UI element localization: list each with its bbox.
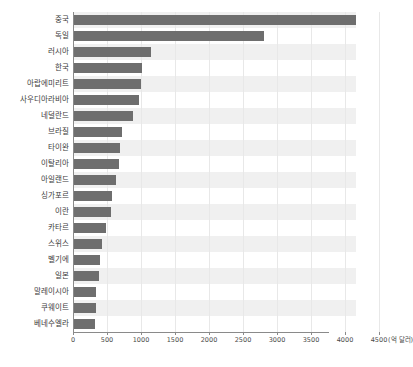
chart-row: 이란 (0, 204, 381, 220)
bar-브라질 (74, 127, 122, 137)
x-tick-mark (107, 332, 108, 335)
axis-unit-label: (억 달러) (388, 337, 413, 344)
bar-rows: 중국독일러시아한국아랍에미리트사우디아라비아네덜란드브라질타이완이탈리아아일랜드… (0, 12, 381, 332)
chart-row: 이탈리아 (0, 156, 381, 172)
x-tick-label: 0 (71, 337, 75, 344)
x-tick-mark (311, 332, 312, 335)
bar-러시아 (74, 47, 151, 57)
category-label: 이탈리아 (0, 156, 69, 172)
category-label: 쿠웨이트 (0, 300, 69, 316)
x-tick-label: 4000 (337, 337, 354, 344)
bar-스위스 (74, 239, 102, 249)
bar-쿠웨이트 (74, 303, 96, 313)
chart-row: 싱가포르 (0, 188, 381, 204)
chart-row: 말레이시아 (0, 284, 381, 300)
x-tick-mark (243, 332, 244, 335)
x-tick-label: 2500 (235, 337, 252, 344)
category-label: 스위스 (0, 236, 69, 252)
chart-row: 아랍에미리트 (0, 76, 381, 92)
category-label: 한국 (0, 60, 69, 76)
category-label: 독일 (0, 28, 69, 44)
category-label: 아일랜드 (0, 172, 69, 188)
x-tick-mark (277, 332, 278, 335)
chart-row: 사우디아라비아 (0, 92, 381, 108)
chart-row: 쿠웨이트 (0, 300, 381, 316)
chart-row: 브라질 (0, 124, 381, 140)
category-label: 네덜란드 (0, 108, 69, 124)
x-axis: 050010001500200025003000350040004500(억 달… (0, 332, 381, 352)
chart-row: 러시아 (0, 44, 381, 60)
bar-독일 (74, 31, 264, 41)
x-tick-label: 1500 (167, 337, 184, 344)
chart-row: 일본 (0, 268, 381, 284)
chart-row: 중국 (0, 12, 381, 28)
bar-벨기에 (74, 255, 100, 265)
bar-타이완 (74, 143, 120, 153)
chart-row: 독일 (0, 28, 381, 44)
bar-네덜란드 (74, 111, 133, 121)
category-label: 싱가포르 (0, 188, 69, 204)
x-tick-label: 500 (101, 337, 113, 344)
bar-베네수엘라 (74, 319, 95, 329)
bar-말레이시아 (74, 287, 96, 297)
chart-row: 벨기에 (0, 252, 381, 268)
category-label: 베네수엘라 (0, 316, 69, 332)
chart-row: 네덜란드 (0, 108, 381, 124)
chart-row: 타이완 (0, 140, 381, 156)
x-tick-mark (73, 332, 74, 335)
bar-카타르 (74, 223, 106, 233)
category-label: 카타르 (0, 220, 69, 236)
bar-한국 (74, 63, 142, 73)
x-tick-mark (141, 332, 142, 335)
bar-이란 (74, 207, 111, 217)
category-label: 타이완 (0, 140, 69, 156)
x-tick-mark (209, 332, 210, 335)
category-label: 중국 (0, 12, 69, 28)
chart-row: 한국 (0, 60, 381, 76)
category-label: 이란 (0, 204, 69, 220)
x-tick-mark (345, 332, 346, 335)
category-label: 아랍에미리트 (0, 76, 69, 92)
bar-아랍에미리트 (74, 79, 141, 89)
category-label: 러시아 (0, 44, 69, 60)
x-tick-label: 3500 (303, 337, 320, 344)
x-tick-mark (379, 332, 380, 335)
chart-row: 아일랜드 (0, 172, 381, 188)
x-tick-label: 2000 (201, 337, 218, 344)
bar-중국 (74, 15, 356, 25)
x-tick-label: 1000 (133, 337, 150, 344)
category-label: 벨기에 (0, 252, 69, 268)
bar-일본 (74, 271, 99, 281)
bar-싱가포르 (74, 191, 112, 201)
bar-이탈리아 (74, 159, 119, 169)
category-label: 브라질 (0, 124, 69, 140)
x-tick-label: 3000 (269, 337, 286, 344)
category-label: 사우디아라비아 (0, 92, 69, 108)
x-tick-label: 4500 (371, 337, 388, 344)
bar-아일랜드 (74, 175, 116, 185)
category-label: 말레이시아 (0, 284, 69, 300)
bar-사우디아라비아 (74, 95, 139, 105)
chart-row: 스위스 (0, 236, 381, 252)
chart-row: 베네수엘라 (0, 316, 381, 332)
chart-row: 카타르 (0, 220, 381, 236)
x-tick-mark (175, 332, 176, 335)
category-label: 일본 (0, 268, 69, 284)
